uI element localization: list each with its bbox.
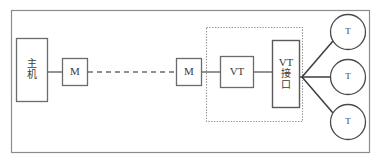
node-terminal-bottom-circle[interactable] <box>331 105 366 140</box>
node-vt-interface-box[interactable] <box>273 41 300 108</box>
node-host-box[interactable] <box>17 39 48 102</box>
link-junction-to-terminal-top <box>302 41 333 77</box>
node-terminal-top-circle[interactable] <box>331 15 366 50</box>
node-modem-remote-box[interactable] <box>177 59 202 86</box>
node-vt-box[interactable] <box>221 57 254 88</box>
diagram-graphics <box>0 0 381 164</box>
node-modem-local-box[interactable] <box>63 59 88 86</box>
link-junction-to-terminal-bottom <box>302 77 333 113</box>
node-terminal-middle-circle[interactable] <box>331 60 366 95</box>
diagram-canvas: 主 机 M M VT VT 接 口 T T T <box>0 0 381 164</box>
